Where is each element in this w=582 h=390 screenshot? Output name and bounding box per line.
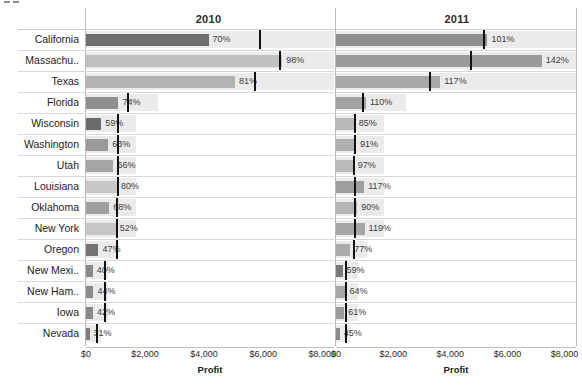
reference-line-marker (353, 156, 355, 175)
profit-bar[interactable] (336, 328, 340, 340)
row-label-new-ham[interactable]: New Ham.. (0, 281, 79, 302)
reference-line-marker (116, 240, 118, 259)
axis-tick-label: $0 (331, 349, 341, 359)
row-label-california[interactable]: California (0, 29, 79, 50)
profit-bar[interactable] (336, 160, 354, 172)
axis-line (86, 347, 334, 348)
bullet-cell-2010[interactable]: 63% (86, 134, 334, 155)
axis-line (336, 347, 576, 348)
bullet-cell-2011[interactable]: 59% (336, 260, 576, 281)
profit-bar[interactable] (86, 97, 118, 109)
profit-bar[interactable] (86, 223, 116, 235)
profit-bar[interactable] (86, 34, 209, 46)
row-label-nevada[interactable]: Nevada (0, 323, 79, 344)
bullet-cell-2011[interactable]: 90% (336, 197, 576, 218)
reference-line-marker (362, 93, 364, 112)
bullet-cell-2010[interactable]: 44% (86, 281, 334, 302)
profit-bar[interactable] (86, 307, 93, 319)
profit-bar[interactable] (86, 244, 98, 256)
profit-bar[interactable] (86, 265, 93, 277)
reference-line-marker (117, 114, 119, 133)
profit-bar[interactable] (86, 139, 108, 151)
percent-label: 59% (347, 263, 365, 278)
profit-bar[interactable] (336, 34, 487, 46)
reference-line-marker (259, 30, 261, 49)
row-label-oklahoma[interactable]: Oklahoma (0, 197, 79, 218)
profit-bar[interactable] (86, 76, 235, 88)
reference-line-marker (104, 261, 106, 280)
bullet-cell-2010[interactable]: 98% (86, 50, 334, 71)
bullet-cell-2011[interactable]: 45% (336, 323, 576, 344)
profit-bar[interactable] (86, 202, 109, 214)
profit-bar[interactable] (86, 286, 93, 298)
bullet-cell-2011[interactable]: 97% (336, 155, 576, 176)
row-label-texas[interactable]: Texas (0, 71, 79, 92)
bullet-cell-2011[interactable]: 110% (336, 92, 576, 113)
reference-line-marker (117, 135, 119, 154)
row-label-wisconsin[interactable]: Wisconsin (0, 113, 79, 134)
row-label-new-york[interactable]: New York (0, 218, 79, 239)
bullet-cell-2011[interactable]: 117% (336, 71, 576, 92)
bullet-cell-2011[interactable]: 101% (336, 29, 576, 50)
bullet-cell-2010[interactable]: 47% (86, 239, 334, 260)
bullet-cell-2011[interactable]: 85% (336, 113, 576, 134)
percent-label: 117% (444, 74, 466, 89)
bullet-cell-2010[interactable]: 31% (86, 323, 334, 344)
row-label-oregon[interactable]: Oregon (0, 239, 79, 260)
percent-label: 110% (370, 95, 392, 110)
bullet-cell-2010[interactable]: 59% (86, 113, 334, 134)
row-label-utah[interactable]: Utah (0, 155, 79, 176)
profit-bar[interactable] (336, 265, 343, 277)
chart-row: Oregon47%77% (0, 239, 582, 260)
chart-row: Washington63%91% (0, 134, 582, 155)
row-label-massachu[interactable]: Massachu.. (0, 50, 79, 71)
profit-bar[interactable] (336, 118, 355, 130)
bullet-cell-2010[interactable]: 81% (86, 71, 334, 92)
profit-bar[interactable] (336, 244, 350, 256)
profit-bar[interactable] (86, 118, 101, 130)
profit-bar[interactable] (336, 181, 364, 193)
bullet-cell-2010[interactable]: 66% (86, 155, 334, 176)
percent-label: 80% (121, 179, 139, 194)
bullet-cell-2010[interactable]: 52% (86, 218, 334, 239)
bullet-cell-2011[interactable]: 117% (336, 176, 576, 197)
x-axis-2010: $0$2,000$4,000$6,000$8,000 (86, 347, 334, 361)
profit-bar[interactable] (336, 55, 542, 67)
percent-label: 52% (120, 221, 138, 236)
bullet-cell-2010[interactable]: 70% (86, 29, 334, 50)
bullet-cell-2011[interactable]: 64% (336, 281, 576, 302)
profit-bar[interactable] (86, 55, 282, 67)
bullet-cell-2011[interactable]: 61% (336, 302, 576, 323)
bullet-cell-2011[interactable]: 77% (336, 239, 576, 260)
bullet-cell-2010[interactable]: 74% (86, 92, 334, 113)
reference-line-marker (345, 282, 347, 301)
row-label-louisiana[interactable]: Louisiana (0, 176, 79, 197)
profit-bar[interactable] (86, 181, 117, 193)
reference-line-marker (345, 303, 347, 322)
bullet-cell-2010[interactable]: 42% (86, 302, 334, 323)
row-label-iowa[interactable]: Iowa (0, 302, 79, 323)
bullet-cell-2010[interactable]: 40% (86, 260, 334, 281)
profit-bar[interactable] (86, 160, 113, 172)
row-label-florida[interactable]: Florida (0, 92, 79, 113)
profit-bar[interactable] (336, 223, 365, 235)
profit-bar[interactable] (336, 286, 345, 298)
profit-bar[interactable] (336, 76, 440, 88)
row-label-new-mexi[interactable]: New Mexi.. (0, 260, 79, 281)
row-label-washington[interactable]: Washington (0, 134, 79, 155)
reference-line-marker (117, 177, 119, 196)
percent-label: 97% (358, 158, 376, 173)
bullet-cell-2011[interactable]: 91% (336, 134, 576, 155)
chart-row: New Ham..44%64% (0, 281, 582, 302)
reference-line-marker (429, 72, 431, 91)
profit-bar[interactable] (336, 307, 344, 319)
percent-label: 101% (491, 32, 514, 47)
profit-bar[interactable] (86, 328, 90, 340)
percent-label: 74% (122, 95, 140, 110)
bullet-cell-2010[interactable]: 68% (86, 197, 334, 218)
reference-line-marker (116, 198, 118, 217)
bullet-cell-2011[interactable]: 119% (336, 218, 576, 239)
bullet-cell-2010[interactable]: 80% (86, 176, 334, 197)
percent-label: 117% (368, 179, 390, 194)
bullet-cell-2011[interactable]: 142% (336, 50, 576, 71)
